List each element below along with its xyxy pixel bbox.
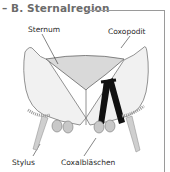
coxal-vesicle-4	[105, 120, 115, 132]
sternal-region-illustration	[0, 0, 170, 172]
coxal-vesicle-1	[52, 120, 62, 132]
left-stylus	[33, 116, 48, 150]
coxal-vesicle-3	[94, 121, 104, 133]
coxal-vesicle-2	[63, 121, 73, 133]
right-stylus	[126, 116, 140, 152]
